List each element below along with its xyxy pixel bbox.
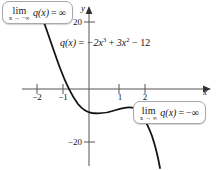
- limit-pos-subscript: x → ∞: [140, 115, 157, 121]
- x-tick-label--2: −2: [30, 92, 44, 102]
- equation-term2-exponent: 2: [126, 36, 129, 43]
- limit-neg-subscript: x → −∞: [9, 15, 30, 21]
- limit-pos-function: q(x): [160, 107, 176, 118]
- equation-constant: 12: [140, 37, 150, 48]
- limit-neg-value: ∞: [59, 7, 66, 18]
- limit-neg-body: q(x)=∞: [33, 8, 66, 18]
- limit-pos-operator-stack: lim x → ∞: [140, 106, 157, 121]
- equation-equals: =: [79, 37, 85, 48]
- x-tick-label--1: −1: [56, 92, 70, 102]
- equation-minus: −: [132, 37, 138, 48]
- equation-term1-coef: −2x: [87, 37, 103, 48]
- equation-term2-coef: 3x: [117, 37, 126, 48]
- y-axis-arrowhead: [86, 6, 93, 14]
- limit-neg-relation: =: [51, 7, 57, 18]
- y-axis-label: y: [81, 3, 85, 13]
- equation-term1-exponent: 3: [103, 36, 106, 43]
- x-axis-label: x: [203, 87, 207, 97]
- y-tick-label--20: −20: [58, 137, 82, 147]
- limit-pos-body: q(x)=−∞: [160, 108, 199, 118]
- limit-pos-value: −∞: [186, 107, 199, 118]
- limit-pos-relation: =: [178, 107, 184, 118]
- plot-area: [0, 0, 220, 170]
- limit-graph-figure: x y −2 −1 1 2 20 −20 q(x) = −2x3 + 3x2 −…: [0, 0, 220, 170]
- limit-at-positive-infinity-box: lim x → ∞ q(x)=−∞: [133, 101, 206, 124]
- function-equation: q(x) = −2x3 + 3x2 − 12: [60, 36, 150, 48]
- equation-plus: +: [109, 37, 115, 48]
- x-tick-label-1: 1: [114, 92, 126, 102]
- limit-neg-function: q(x): [33, 7, 49, 18]
- equation-lhs: q(x): [60, 37, 76, 48]
- limit-neg-operator-stack: lim x → −∞: [9, 6, 30, 21]
- limit-at-negative-infinity-box: lim x → −∞ q(x)=∞: [2, 1, 73, 24]
